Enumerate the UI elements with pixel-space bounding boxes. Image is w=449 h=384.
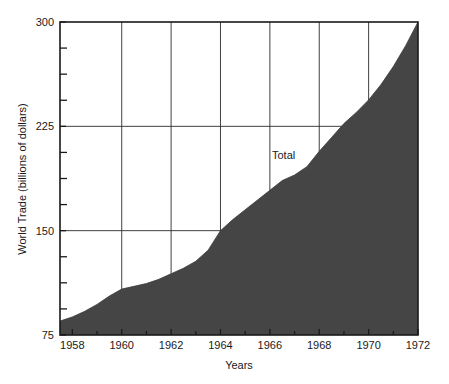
x-tick-label-1968: 1968 — [307, 339, 331, 351]
x-tick-label-1962: 1962 — [159, 339, 183, 351]
x-tick-label-1960: 1960 — [109, 339, 133, 351]
y-axis-title: World Trade (billions of dollars) — [16, 103, 28, 254]
y-tick-label-225: 225 — [36, 120, 54, 132]
y-tick-label-150: 150 — [36, 225, 54, 237]
x-tick-label-1964: 1964 — [208, 339, 232, 351]
total-series-annotation: Total — [272, 149, 295, 161]
x-axis-title: Years — [225, 359, 253, 371]
chart-figure: 19581960196219641966196819701972 7515022… — [0, 0, 449, 384]
x-tick-label-1966: 1966 — [258, 339, 282, 351]
y-tick-label-75: 75 — [42, 329, 54, 341]
y-tick-label-300: 300 — [36, 16, 54, 28]
x-tick-label-1958: 1958 — [60, 339, 84, 351]
world-trade-area-chart: 19581960196219641966196819701972 7515022… — [0, 0, 449, 384]
x-tick-label-1972: 1972 — [406, 339, 430, 351]
x-tick-label-1970: 1970 — [356, 339, 380, 351]
